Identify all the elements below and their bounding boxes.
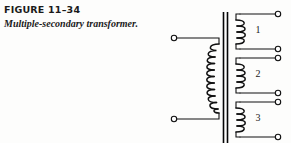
primary-coil-turns [207,44,219,113]
secondary-1-label: 1 [256,24,261,35]
secondary-3-coil-turns [236,108,245,132]
primary-terminal-bottom [171,116,176,121]
secondary-2-top-lead [236,58,240,64]
iron-core [224,12,228,143]
secondary-1-terminal-top [275,11,280,16]
primary-top-lead [177,38,219,44]
transformer-schematic: 1 2 [0,0,291,143]
figure-panel: FIGURE 11–34 Multiple-secondary transfor… [0,0,291,143]
secondary-3-bottom-lead [236,132,240,137]
secondary-3-terminal-bottom [275,134,280,139]
secondary-2-terminal-bottom [275,90,280,95]
secondary-2-terminal-top [275,55,280,60]
secondary-1-bottom-lead [236,44,240,49]
secondary-3-label: 3 [256,112,261,123]
secondary-3-top-lead [236,102,240,108]
secondary-3-terminal-top [275,99,280,104]
primary-terminal-top [171,35,176,40]
secondary-winding-1: 1 [236,11,281,51]
secondary-winding-2: 2 [236,55,281,95]
secondary-2-coil-turns [236,64,245,88]
secondary-2-bottom-lead [236,88,240,93]
secondary-1-coil-turns [236,20,245,44]
secondary-1-top-lead [236,14,240,20]
secondary-2-label: 2 [256,68,261,79]
primary-bottom-lead [177,113,219,119]
secondary-1-terminal-bottom [275,46,280,51]
secondary-winding-3: 3 [236,99,281,139]
primary-winding-group [171,35,219,121]
